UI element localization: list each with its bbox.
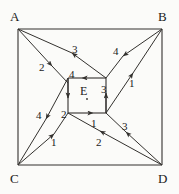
edge-label-inner-top: 4 [69, 69, 75, 80]
edge-label-inner-bottom: 1 [91, 118, 97, 129]
edge-label-lower-right-inner: 2 [96, 137, 102, 148]
spoke-inner-left-to-C-rest [18, 119, 46, 165]
spokes-from-C [18, 78, 68, 165]
edge-label-inner-left: 2 [61, 109, 67, 120]
spoke-inner-right-to-B-rest [133, 29, 162, 73]
corner-label-B: B [158, 10, 167, 23]
spokes-from-D [68, 113, 162, 165]
corner-label-C: C [10, 172, 19, 185]
corner-label-A: A [10, 10, 19, 23]
edge-label-inner-right: 3 [101, 84, 107, 95]
geometry-diagram [0, 0, 179, 194]
spoke-B-to-inner-top-right [123, 29, 162, 56]
edge-label-top-left-outer: 3 [72, 44, 78, 55]
edge-label-upper-left-inner: 2 [39, 62, 45, 73]
corner-label-D: D [158, 172, 167, 185]
center-point-label-E: E [80, 85, 87, 97]
spokes-from-A [18, 29, 106, 83]
edge-label-lower-right-outer: 3 [122, 121, 128, 132]
spoke-B-to-inner-top-right-rest [106, 56, 123, 78]
spoke-inner-top-left-to-A [72, 53, 106, 78]
spoke-A-to-inner-bottom-left-rest [52, 66, 68, 83]
spoke-A-to-inner-bottom-left [18, 29, 52, 66]
edge-label-lower-left-outer: 4 [36, 110, 42, 121]
spokes-from-B [106, 29, 162, 113]
edge-label-upper-right-outer: 4 [113, 46, 119, 57]
spoke-C-to-inner-bottom-left [18, 134, 54, 165]
edge-label-lower-left-inner: 1 [51, 137, 57, 148]
center-point-dot [86, 98, 88, 100]
spoke-inner-top-left-to-A-rest [18, 29, 72, 53]
figure-root: A B C D E 3 2 4 4 1 3 4 2 1 1 3 2 [0, 0, 179, 194]
edge-label-upper-right-inner: 1 [129, 78, 135, 89]
